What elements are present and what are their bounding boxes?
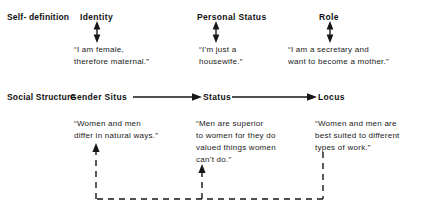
node-title-personal-status: Personal Status [197,12,267,22]
node-title-role: Role [319,12,339,22]
connector-layer [0,0,441,215]
quote-identity: “I am female, therefore maternal.” [74,44,199,68]
node-title-status: Status [203,92,231,102]
horizontal-arrow-gender-situs-to-status-icon [133,93,202,101]
node-title-locus: Locus [318,92,345,102]
quote-gender-situs: “Women and men differ in natural ways.” [74,118,199,142]
quote-locus: “Women and men are best suited to differ… [315,118,437,154]
node-title-identity: Identity [80,12,113,22]
vertical-double-arrow-role-icon [327,21,334,43]
node-title-gender-situs: Gender Situs [70,92,127,102]
diagram-canvas: Self- definition Social Structure Identi… [0,0,441,215]
row-label-social-structure: Social Structure [7,92,75,104]
vertical-double-arrow-identity-icon [94,21,101,43]
row-label-self-definition: Self- definition [7,12,69,24]
horizontal-arrow-status-to-locus-icon [232,93,317,101]
vertical-double-arrow-personal-status-icon [213,21,220,43]
quote-role: “I am a secretary and want to become a m… [288,44,438,68]
quote-status: “Men are superior to women for they do v… [196,118,314,166]
